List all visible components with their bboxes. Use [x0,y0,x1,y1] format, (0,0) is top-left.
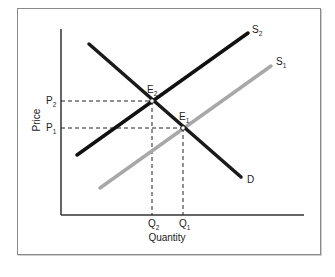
label-p2: P2 [46,95,57,108]
label-p1: P1 [46,122,57,135]
guide-lines [61,101,183,215]
supply-curve-s2 [77,33,248,155]
equilibrium-point-e2 [150,99,155,104]
label-s1: S1 [276,56,287,69]
equilibrium-point-e1 [181,126,186,131]
label-demand: D [247,174,254,185]
label-q1: Q1 [179,218,191,231]
supply-demand-diagram: S2 S1 D E2 E1 P2 P1 Q2 Q1 Quantity Price [0,0,335,277]
demand-curve [89,44,241,177]
x-axis-title: Quantity [148,232,185,243]
label-s2: S2 [252,24,263,37]
y-axis-title: Price [31,108,42,131]
label-q2: Q2 [148,218,160,231]
